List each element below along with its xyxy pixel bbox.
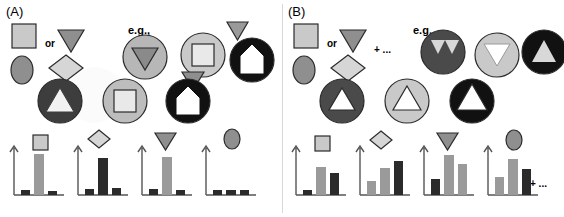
chart-b-4 [484, 130, 538, 195]
chart-a-2-icon-diamond [88, 130, 110, 148]
panel-b-graphics [282, 0, 564, 217]
chart-a-3 [138, 133, 192, 195]
composite-crescent-black [450, 79, 494, 123]
chart-a-4-icon-ellipse [224, 129, 240, 149]
chart-b-2 [356, 131, 410, 195]
chart-b-3 [420, 133, 474, 195]
chart-b-4-icon-ellipse [506, 130, 522, 150]
composite-inner-square-3 [114, 90, 136, 112]
shape-ellipse-legend [293, 56, 315, 84]
shape-triangle-down-legend [58, 30, 84, 52]
shape-triangle-down-legend [340, 30, 366, 52]
chart-a-3-icon-triangle [155, 133, 176, 150]
panel-b: (B) or + ... e.g., + ... [282, 0, 564, 217]
chart-a-4 [202, 129, 256, 195]
composite-inner-square-2 [192, 44, 214, 66]
shape-square-legend [294, 24, 318, 48]
chart-a-2 [74, 130, 128, 195]
panel-a: (A) or e.g., [0, 0, 282, 217]
chart-b-1 [292, 136, 346, 195]
panel-a-graphics [0, 0, 282, 217]
shape-square-legend [12, 24, 36, 48]
shape-diamond-legend [331, 55, 365, 81]
chart-a-1 [10, 135, 64, 195]
composite-crescent-dark [320, 79, 364, 123]
chart-b-2-icon-diamond [370, 131, 392, 149]
chart-b-3-icon-triangle [437, 133, 458, 150]
chart-a-1-icon-square [33, 135, 48, 150]
chart-b-1-icon-square [315, 136, 330, 151]
composite-circle-dark-1 [421, 30, 465, 74]
composite-triangle-top [227, 22, 248, 40]
shape-ellipse-legend [11, 56, 33, 84]
composite-crescent-gray [385, 79, 429, 123]
